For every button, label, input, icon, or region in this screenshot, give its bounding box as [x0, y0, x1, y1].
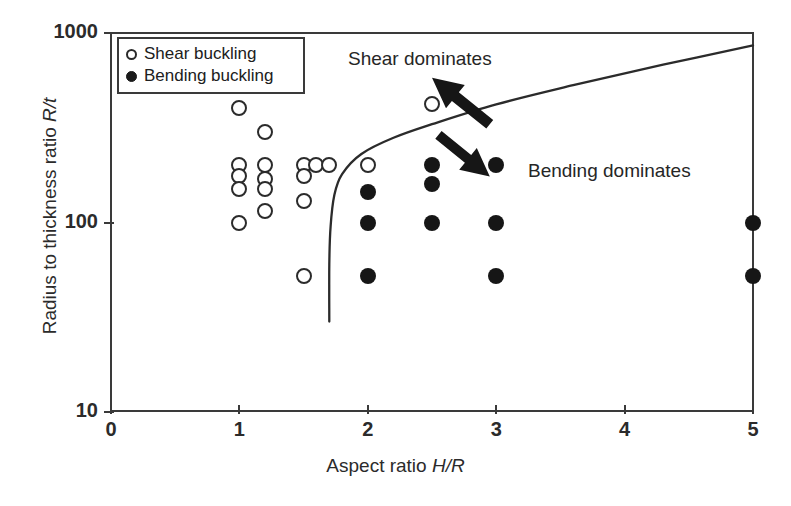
y-tick-100 [104, 222, 114, 224]
data-point-shear [296, 193, 312, 209]
y-axis-title: Radius to thickness ratio R/t [39, 16, 61, 416]
y-axis-title-text: Radius to thickness ratio [39, 127, 60, 334]
y-axis-title-symbol: R/t [39, 98, 60, 122]
data-point-shear [257, 203, 273, 219]
data-point-shear [231, 215, 247, 231]
data-point-shear [296, 168, 312, 184]
x-axis-title: Aspect ratio H/R [0, 455, 791, 477]
x-tick-2 [367, 405, 369, 414]
plot-frame-top [110, 32, 754, 34]
x-tick-label-5: 5 [733, 418, 773, 441]
data-point-bending [360, 184, 376, 200]
y-tick-1000 [104, 32, 114, 34]
x-tick-label-2: 2 [348, 418, 388, 441]
filled-circle-icon [126, 71, 137, 82]
legend-label-shear-buckling: Shear buckling [144, 44, 256, 64]
annotation-bending-dominates: Bending dominates [528, 160, 691, 182]
legend-item-bending-buckling: Bending buckling [126, 65, 297, 87]
open-circle-icon [126, 49, 137, 60]
data-point-bending [360, 268, 376, 284]
x-tick-4 [624, 405, 626, 414]
annotation-shear-dominates: Shear dominates [348, 48, 492, 70]
data-point-bending [745, 215, 761, 231]
x-tick-label-1: 1 [219, 418, 259, 441]
x-axis-title-text: Aspect ratio [326, 455, 426, 476]
data-point-bending [745, 268, 761, 284]
data-point-bending [488, 215, 504, 231]
x-tick-1 [238, 405, 240, 414]
x-tick-label-4: 4 [605, 418, 645, 441]
x-tick-label-3: 3 [476, 418, 516, 441]
y-tick-10 [104, 411, 114, 413]
data-point-shear [296, 268, 312, 284]
x-tick-3 [495, 405, 497, 414]
x-tick-5 [752, 405, 754, 414]
data-point-bending [424, 215, 440, 231]
legend-label-bending-buckling: Bending buckling [144, 66, 273, 86]
legend-item-shear-buckling: Shear buckling [126, 43, 297, 65]
data-point-bending [360, 215, 376, 231]
data-point-bending [424, 176, 440, 192]
x-axis-title-symbol: H/R [432, 455, 465, 476]
legend: Shear buckling Bending buckling [117, 37, 305, 94]
chart-figure: 012345 101001000 Aspect ratio H/R Radius… [0, 0, 791, 506]
